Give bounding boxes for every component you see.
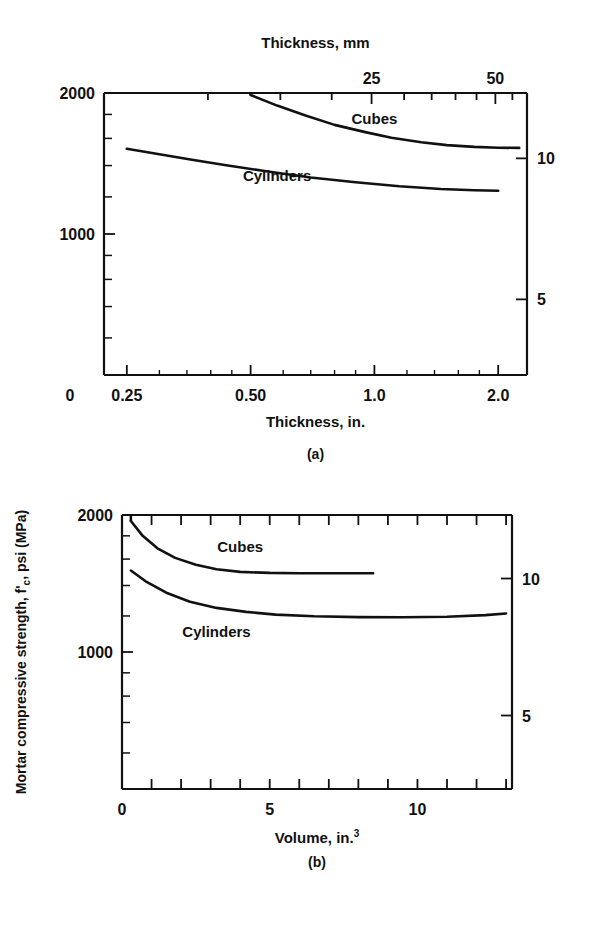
panel-a-bottom-tick-label: 0.50 <box>235 387 266 404</box>
panel-b-right-tick-label: 5 <box>522 708 531 725</box>
panel-b-bottom-tick-label: 0 <box>118 801 127 818</box>
panel-b-left-tick-label: 1000 <box>77 644 113 661</box>
panel-a-bottom-tick-label: 2.0 <box>487 387 509 404</box>
panel-a-right-tick-label: 5 <box>537 291 546 308</box>
panel-a-series-cylinders <box>127 149 498 191</box>
panel-a-right-tick-label: 10 <box>537 150 555 167</box>
panel-b-caption: (b) <box>308 854 326 870</box>
panel-a-left-tick-label: 1000 <box>59 226 95 243</box>
panel-a-caption: (a) <box>307 446 324 462</box>
panel-a-top-tick-label: 50 <box>486 70 504 87</box>
panel-b-label-cubes: Cubes <box>217 538 263 555</box>
panel-a-bottom-axis-title: Thickness, in. <box>266 413 365 430</box>
panel-a-left-tick-label: 2000 <box>59 85 95 102</box>
panel-a-origin-label: 0 <box>66 387 75 404</box>
panel-b-bottom-axis-title: Volume, in.3 <box>275 828 360 846</box>
figure-svg: Thickness, mm25500.250.501.02.00Thicknes… <box>0 0 615 934</box>
panel-a-label-cubes: Cubes <box>351 110 397 127</box>
panel-a-top-axis-title: Thickness, mm <box>261 34 369 51</box>
panel-b-bottom-tick-label: 10 <box>409 801 427 818</box>
panel-a-bottom-tick-label: 1.0 <box>363 387 385 404</box>
panel-b-bottom-tick-label: 5 <box>265 801 274 818</box>
figure-container: Thickness, mm25500.250.501.02.00Thicknes… <box>0 0 615 934</box>
panel-b-series-cylinders <box>131 571 506 618</box>
panel-b-label-cylinders: Cylinders <box>182 623 250 640</box>
panel-a-label-cylinders: Cylinders <box>243 167 311 184</box>
panel-a-top-tick-label: 25 <box>363 70 381 87</box>
panel-a-bottom-tick-label: 0.25 <box>111 387 142 404</box>
y-axis-label: Mortar compressive strength, f'c, psi (M… <box>13 510 32 794</box>
panel-b-left-tick-label: 2000 <box>77 507 113 524</box>
panel-b-right-tick-label: 10 <box>522 571 540 588</box>
